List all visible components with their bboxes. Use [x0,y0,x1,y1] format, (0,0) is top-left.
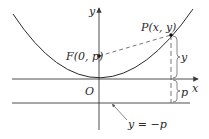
point-label: P(x, y) [140,21,176,34]
y-distance-label: y [180,51,188,64]
y-axis-label: y [88,5,96,18]
focus-to-point-dashed [99,35,171,56]
focus-label: F(0, p) [65,50,103,63]
x-axis-label: x [192,82,199,95]
y-distance-brace [173,36,180,78]
p-distance-brace [173,80,180,102]
directrix-label: y = −p [127,118,167,131]
parabola-diagram: y x O F(0, p) P(x, y) y p y = −p [0,0,209,139]
p-distance-label: p [181,86,188,99]
directrix-leader [114,106,127,120]
origin-label: O [85,85,94,98]
parabola-curve [13,9,193,78]
